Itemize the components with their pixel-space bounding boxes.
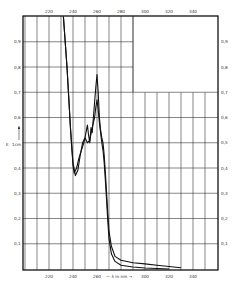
y-tick-label-left: 0,8 xyxy=(14,65,21,70)
y-tick-label-right: 0,3 xyxy=(221,191,228,196)
y-tick-label-right: 0,2 xyxy=(221,216,228,221)
y-axis-label-sub: 1cm xyxy=(12,142,21,147)
x-tick-label-bottom: 220 xyxy=(45,274,53,279)
x-tick-label-bottom: 300 xyxy=(141,274,149,279)
y-tick-label-right: 0,4 xyxy=(221,166,228,171)
grid-lines xyxy=(23,16,218,270)
absorption-spectrum-chart: 2202402602803003203402202402603003203400… xyxy=(0,0,239,290)
x-tick-label-bottom: 240 xyxy=(69,274,77,279)
y-tick-label-left: 0,6 xyxy=(14,115,21,120)
y-tick-label-left: 0,3 xyxy=(14,191,21,196)
x-tick-label-bottom: 260 xyxy=(93,274,101,279)
y-tick-label-right: 0,6 xyxy=(221,115,228,120)
x-tick-label-top: 280 xyxy=(117,9,125,14)
x-tick-label-top: 260 xyxy=(93,9,101,14)
x-tick-label-bottom: 320 xyxy=(165,274,173,279)
x-tick-label-bottom: 340 xyxy=(189,274,197,279)
x-axis-label: — λ in nm → xyxy=(106,274,133,279)
y-axis-label: E xyxy=(6,142,9,147)
x-tick-label-top: 220 xyxy=(45,9,53,14)
x-tick-label-top: 320 xyxy=(165,9,173,14)
y-tick-label-right: 0,7 xyxy=(221,90,228,95)
x-tick-label-top: 300 xyxy=(141,9,149,14)
y-tick-label-left: 0,2 xyxy=(14,216,21,221)
y-tick-label-left: 0,9 xyxy=(14,39,21,44)
y-tick-label-left: 0,7 xyxy=(14,90,21,95)
y-tick-label-left: 0,4 xyxy=(14,166,21,171)
spectrum-curve-1 xyxy=(63,17,181,268)
y-tick-label-left: 0,1 xyxy=(14,241,21,246)
x-tick-label-top: 240 xyxy=(69,9,77,14)
y-tick-label-right: 0,8 xyxy=(221,65,228,70)
y-tick-label-right: 0,1 xyxy=(221,241,228,246)
y-tick-label-right: 0,9 xyxy=(221,39,228,44)
y-tick-label-right: 0,5 xyxy=(221,140,228,145)
x-tick-label-top: 340 xyxy=(189,9,197,14)
